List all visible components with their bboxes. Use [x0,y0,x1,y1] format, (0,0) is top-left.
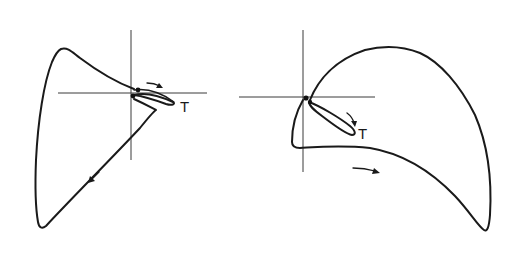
right-origin-dot-lower [308,100,312,104]
right-origin-dot-upper [303,95,308,100]
right-outer-loop [292,47,490,230]
left-point-label: T [180,99,189,114]
left-arrow-right-icon [147,83,163,88]
right-inner-loop [309,102,355,135]
left-panel [35,30,207,228]
left-origin-dot-lower [131,94,136,99]
right-arrow-right-icon [353,168,380,174]
diagram-canvas [0,0,507,266]
left-arrow-down-left-icon [88,172,99,183]
left-origin-dot-upper [136,88,141,93]
left-inner-loop [134,94,174,105]
right-point-label: T [358,126,367,141]
left-outer-loop [35,49,156,228]
